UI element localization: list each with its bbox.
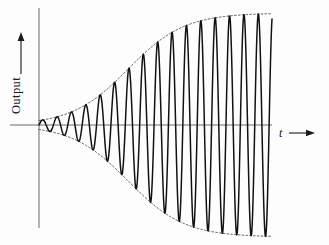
figure-container: Output t [0,0,329,245]
right-arrow-icon [289,130,315,136]
y-axis-label: Output [9,64,24,128]
oscillation-plot [0,0,329,245]
lower-envelope-curve [39,129,272,236]
x-axis-label: t [279,126,282,141]
